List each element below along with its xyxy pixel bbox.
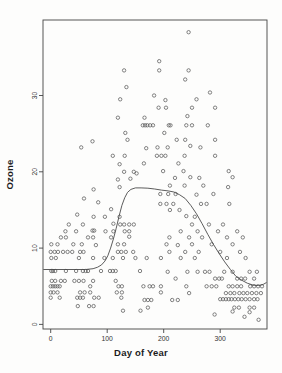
data-point — [256, 298, 259, 301]
data-point — [81, 223, 84, 226]
data-point — [121, 309, 124, 312]
data-point — [58, 285, 61, 288]
data-point — [213, 277, 216, 280]
data-point — [123, 230, 126, 233]
data-point — [50, 256, 53, 259]
data-point — [231, 243, 234, 246]
data-point — [78, 250, 81, 253]
data-point — [183, 184, 186, 187]
data-point — [49, 250, 52, 253]
x-tick-label: 300 — [215, 335, 227, 342]
data-point — [119, 223, 122, 226]
data-point — [129, 177, 132, 180]
data-point — [86, 236, 89, 239]
data-point — [231, 285, 234, 288]
data-point — [187, 291, 190, 294]
data-point — [158, 69, 161, 72]
data-point — [166, 146, 169, 149]
data-point — [119, 98, 122, 101]
data-point — [120, 285, 123, 288]
data-point — [126, 138, 129, 141]
data-point — [50, 243, 53, 246]
y-axis-title: Ozone — [4, 100, 15, 250]
data-point — [97, 201, 100, 204]
data-point — [187, 31, 190, 34]
data-point — [99, 269, 102, 272]
data-point — [53, 250, 56, 253]
data-point — [59, 279, 62, 282]
data-point — [244, 256, 247, 259]
data-point — [135, 172, 138, 175]
data-point — [128, 235, 131, 238]
data-point — [146, 298, 149, 301]
data-point — [78, 291, 81, 294]
data-point — [249, 285, 252, 288]
data-point — [92, 304, 95, 307]
data-point — [164, 154, 167, 157]
data-point — [49, 296, 52, 299]
data-point — [166, 270, 169, 273]
data-point — [145, 256, 148, 259]
data-point — [67, 223, 70, 226]
data-point — [210, 285, 213, 288]
data-point — [173, 176, 176, 179]
data-point — [128, 223, 131, 226]
data-point — [112, 230, 115, 233]
data-point — [193, 256, 196, 259]
data-point — [109, 208, 112, 211]
data-point — [124, 250, 127, 253]
data-point — [148, 285, 151, 288]
data-point — [183, 154, 186, 157]
data-point — [179, 230, 182, 233]
data-point — [91, 279, 94, 282]
data-point — [111, 256, 114, 259]
data-point — [82, 197, 85, 200]
data-point — [199, 146, 202, 149]
data-point — [184, 250, 187, 253]
data-point — [59, 236, 62, 239]
y-tick-label: 0 — [31, 322, 38, 326]
data-point — [71, 250, 74, 253]
data-point — [237, 298, 240, 301]
data-point — [54, 256, 57, 259]
data-point — [236, 285, 239, 288]
data-point — [120, 250, 123, 253]
data-point — [182, 169, 185, 172]
data-point — [97, 296, 100, 299]
data-point — [111, 154, 114, 157]
data-point — [64, 230, 67, 233]
data-point — [238, 250, 241, 253]
data-point — [248, 306, 251, 309]
data-point — [77, 279, 80, 282]
data-point — [116, 178, 119, 181]
data-point — [150, 298, 153, 301]
x-tick-label: 100 — [102, 335, 114, 342]
data-point — [168, 250, 171, 253]
data-point — [161, 169, 164, 172]
data-point — [151, 285, 154, 288]
data-point — [116, 243, 119, 246]
data-point — [138, 269, 141, 272]
data-point — [159, 291, 162, 294]
data-point — [73, 279, 76, 282]
data-point — [80, 146, 83, 149]
data-point — [94, 243, 97, 246]
data-point — [252, 306, 255, 309]
smooth-fit-curve — [43, 188, 266, 286]
data-point — [58, 296, 61, 299]
data-point — [168, 184, 171, 187]
y-tick-label: 30 — [31, 92, 38, 100]
data-point — [168, 208, 171, 211]
data-point — [159, 192, 162, 195]
data-point — [233, 291, 236, 294]
x-tick-label: 0 — [49, 335, 53, 342]
data-point — [122, 170, 125, 173]
data-point — [104, 230, 107, 233]
plot-canvas: 01002003000102030 — [0, 0, 282, 373]
data-point — [82, 279, 85, 282]
data-point — [255, 291, 258, 294]
data-point — [168, 236, 171, 239]
data-point — [54, 279, 57, 282]
data-point — [178, 208, 181, 211]
data-point — [239, 285, 242, 288]
